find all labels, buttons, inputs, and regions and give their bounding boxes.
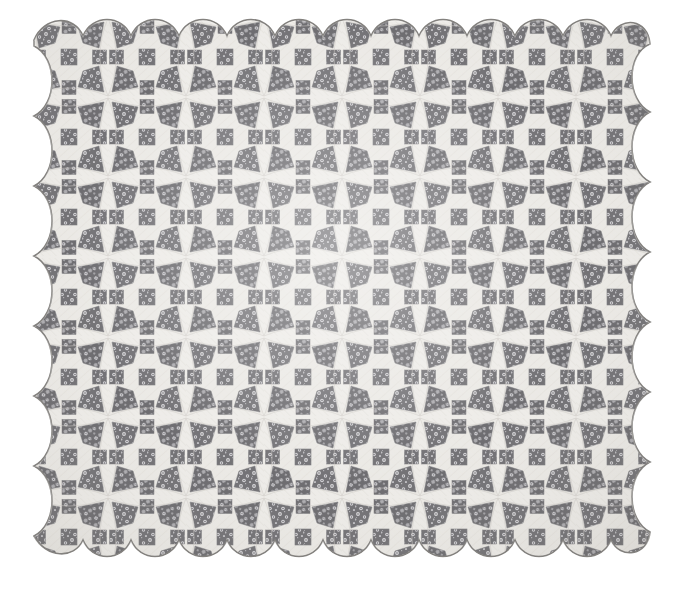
quilt-body — [20, 8, 666, 588]
image-canvas: Star / pinwheel patchwork quilt with sca… — [0, 0, 686, 595]
quilt-photograph — [0, 0, 686, 595]
